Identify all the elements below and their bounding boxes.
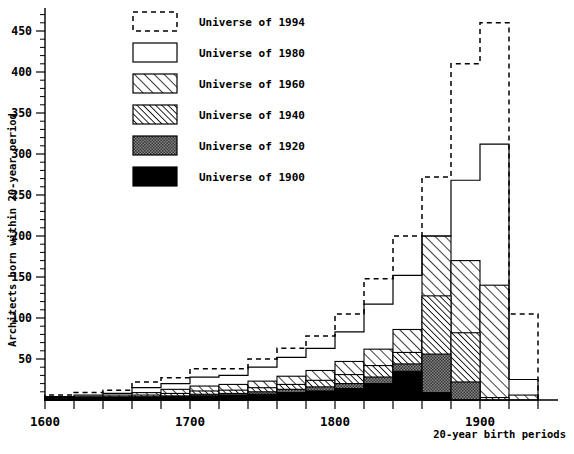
bar	[364, 384, 393, 400]
legend-swatch	[133, 74, 177, 93]
legend-item: Universe of 1900	[133, 167, 305, 186]
bar	[248, 394, 277, 400]
legend-item: Universe of 1940	[133, 105, 305, 124]
legend-item: Universe of 1980	[133, 43, 305, 62]
y-axis-title: Architects born within 20-year period	[6, 113, 18, 347]
legend-swatch	[133, 105, 177, 124]
x-axis-title: 20-year birth periods	[433, 428, 566, 440]
legend-item: Universe of 1960	[133, 74, 305, 93]
chart-figure: 5010015020025030035040045016001700180019…	[0, 0, 574, 454]
y-tick-label: 50	[18, 352, 32, 366]
bar	[306, 391, 335, 400]
legend-label: Universe of 1980	[199, 47, 305, 60]
legend-label: Universe of 1994	[199, 16, 305, 29]
bar	[422, 393, 451, 400]
x-tick-label: 1900	[465, 414, 495, 429]
legend-label: Universe of 1960	[199, 78, 305, 91]
legend-swatch	[133, 167, 177, 186]
legend-label: Universe of 1920	[199, 140, 305, 153]
legend-item: Universe of 1994	[133, 12, 305, 31]
bar	[393, 371, 422, 400]
legend-swatch	[133, 43, 177, 62]
x-tick-label: 1600	[30, 414, 60, 429]
chart-legend: Universe of 1994Universe of 1980Universe…	[133, 12, 305, 186]
legend-swatch	[133, 12, 177, 31]
legend-label: Universe of 1900	[199, 171, 305, 184]
y-tick-label: 400	[11, 65, 32, 79]
legend-item: Universe of 1920	[133, 136, 305, 155]
bar	[451, 382, 480, 400]
bar	[219, 395, 248, 400]
bar	[480, 285, 509, 400]
bar	[509, 395, 538, 400]
legend-label: Universe of 1940	[199, 109, 305, 122]
x-tick-label: 1800	[320, 414, 350, 429]
bar	[277, 393, 306, 400]
bar	[335, 389, 364, 400]
histogram-chart: 5010015020025030035040045016001700180019…	[0, 0, 574, 454]
y-tick-label: 450	[11, 24, 32, 38]
x-tick-label: 1700	[175, 414, 205, 429]
legend-swatch	[133, 136, 177, 155]
